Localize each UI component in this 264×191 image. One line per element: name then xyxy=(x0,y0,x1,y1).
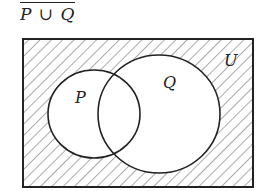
venn-diagram: P Q U xyxy=(0,0,264,191)
universe-label: U xyxy=(224,51,238,70)
set-p-label: P xyxy=(74,88,86,107)
set-q-label: Q xyxy=(163,73,176,92)
